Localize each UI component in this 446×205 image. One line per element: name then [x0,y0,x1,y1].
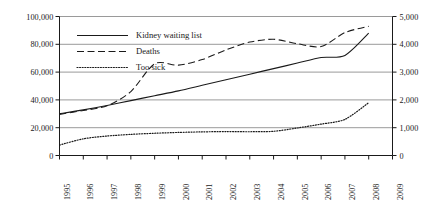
x-axis-tick-label: 2007 [348,183,357,199]
series-line-too-sick [60,103,369,145]
y-axis-left-tick-label: 20,000 [0,123,54,132]
x-axis-tick-label: 2004 [277,183,286,199]
kidney-chart: 020,00040,00060,00080,000100,000 01,0002… [0,0,446,205]
x-axis-tick-label: 2006 [324,183,333,199]
y-axis-right-tick-label: 1,000 [400,123,419,132]
legend-label: Too sick [136,62,165,72]
x-axis-tick-label: 2005 [301,183,310,199]
y-axis-left-tick-label: 60,000 [0,68,54,77]
series-line-kidney-waiting-list [60,33,369,114]
y-axis-right-tick-label: 4,000 [400,40,419,49]
legend-swatches [77,36,128,68]
chart-axes [60,17,393,156]
gridlines [60,17,393,128]
x-axis-tick-label: 2001 [205,183,214,199]
x-axis-tick-label: 1999 [158,183,167,199]
y-axis-left-tick-label: 40,000 [0,95,54,104]
series-line-deaths [60,26,369,114]
y-axis-right-tick-label: 5,000 [400,12,419,21]
x-axis-tick-label: 2008 [372,183,381,199]
legend-label: Deaths [136,46,160,56]
x-axis-tick-label: 1998 [134,183,143,199]
axis-ticks [56,17,397,160]
x-axis-tick-label: 1995 [63,183,72,199]
y-axis-right-tick-label: 2,000 [400,95,419,104]
legend-label: Kidney waiting list [136,30,202,40]
x-axis-tick-label: 2009 [396,183,405,199]
y-axis-left-tick-label: 0 [0,151,54,160]
x-axis-tick-label: 2000 [182,183,191,199]
x-axis-tick-label: 2003 [253,183,262,199]
y-axis-right-tick-label: 3,000 [400,68,419,77]
x-axis-tick-label: 1997 [110,183,119,199]
y-axis-left-tick-label: 100,000 [0,12,54,21]
y-axis-right-tick-label: 0 [400,151,404,160]
x-axis-tick-label: 1996 [86,183,95,199]
y-axis-left-tick-label: 80,000 [0,40,54,49]
x-axis-tick-label: 2002 [229,183,238,199]
chart-canvas [0,0,446,205]
